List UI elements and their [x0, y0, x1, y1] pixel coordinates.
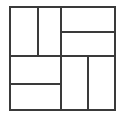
- cell-top-left-a: [11, 8, 37, 55]
- cell-bottom-right-left: [62, 57, 87, 109]
- cell-bottom-left-upper: [11, 57, 60, 83]
- outer-border-right: [114, 6, 116, 111]
- cell-bottom-left-lower: [11, 85, 60, 109]
- cell-bottom-right-right: [89, 57, 114, 109]
- cell-top-right-lower: [62, 33, 114, 55]
- cell-top-right-upper: [62, 8, 114, 31]
- partitioned-square-diagram: [0, 0, 126, 119]
- cell-top-left-b: [39, 8, 60, 55]
- outer-border-bottom: [9, 109, 116, 111]
